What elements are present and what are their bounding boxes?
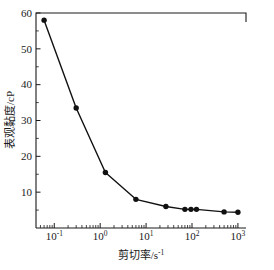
data-point [221, 209, 226, 214]
y-axis-title-text: 表观黏度/cP [3, 91, 16, 149]
y-tick-label-40: 40 [21, 78, 33, 90]
viscosity-shear-rate-chart: 102030405060 10-1100101102103 表观黏度/cP 剪切… [0, 0, 274, 270]
x-axis-title-text: 剪切率/s-1 [118, 248, 165, 261]
data-point [235, 210, 240, 215]
data-point [41, 17, 46, 22]
y-axis-title: 表观黏度/cP [3, 91, 16, 149]
x-axis-title: 剪切率/s-1 [118, 248, 165, 261]
chart-figure: 102030405060 10-1100101102103 表观黏度/cP 剪切… [0, 0, 274, 270]
data-point [194, 207, 199, 212]
data-point [133, 197, 138, 202]
y-tick-label-60: 60 [21, 7, 33, 19]
y-tick-label-10: 10 [21, 186, 33, 198]
data-point [163, 204, 168, 209]
data-point [188, 207, 193, 212]
y-tick-label-20: 20 [21, 150, 33, 162]
data-point [73, 105, 78, 110]
data-point [103, 170, 108, 175]
y-tick-label-50: 50 [21, 43, 33, 55]
data-point [182, 207, 187, 212]
y-tick-label-30: 30 [21, 114, 33, 126]
